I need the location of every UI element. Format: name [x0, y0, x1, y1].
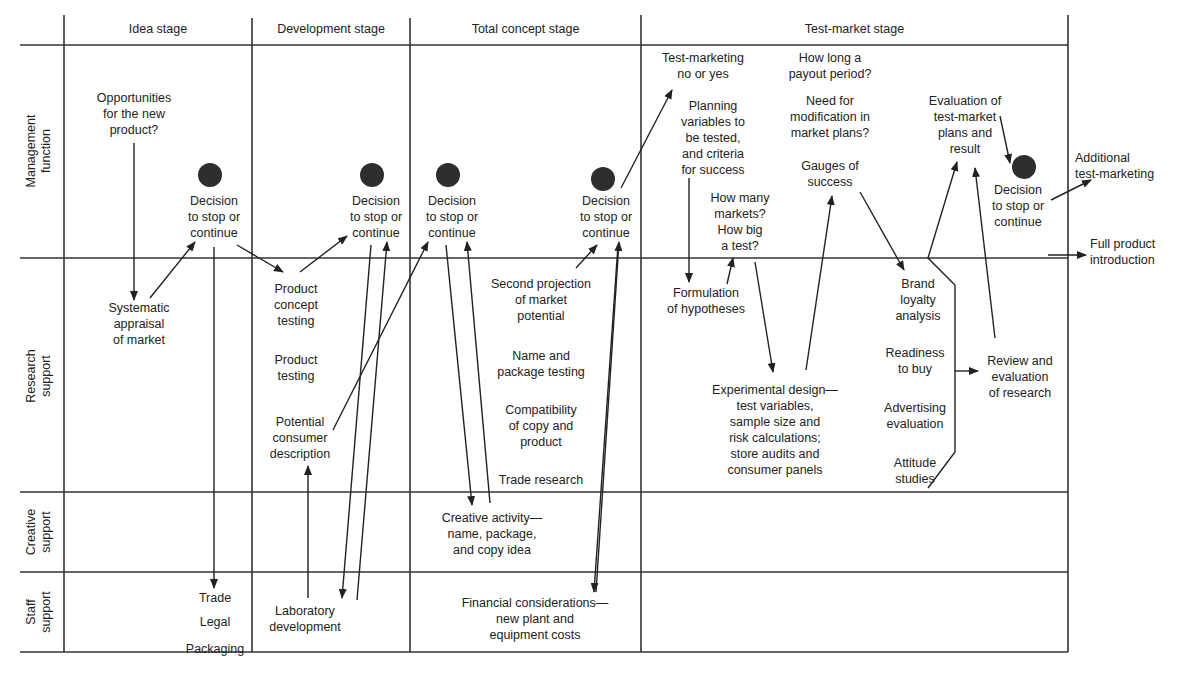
- second-projection-text: Second projection of market potential: [476, 276, 606, 324]
- creative-activity-text: Creative activity— name, package, and co…: [422, 510, 562, 558]
- attitude-text: Attitude studies: [872, 455, 958, 487]
- decision-development: Decision to stop or continue: [336, 193, 416, 241]
- decision-dot-icon: [1012, 155, 1036, 179]
- payout-text: How long a payout period?: [775, 50, 885, 82]
- decision-dot-icon: [198, 163, 222, 187]
- hypotheses-text: Formulation of hypotheses: [656, 285, 756, 317]
- column-header-idea: Idea stage: [64, 22, 252, 36]
- readiness-text: Readiness to buy: [872, 345, 958, 377]
- brand-loyalty-text: Brand loyalty analysis: [878, 276, 958, 324]
- decision-test-market-final: Decision to stop or continue: [978, 182, 1058, 230]
- consumer-description-text: Potential consumer description: [258, 414, 342, 462]
- row-label-staff: Staff support: [24, 567, 56, 657]
- laboratory-text: Laboratory development: [260, 603, 350, 635]
- row-label-management: Management function: [24, 96, 56, 206]
- row-label-creative: Creative support: [24, 487, 56, 577]
- appraisal-text: Systematic appraisal of market: [84, 300, 194, 348]
- financial-text: Financial considerations— new plant and …: [450, 595, 620, 643]
- staff-trade: Trade: [180, 590, 250, 606]
- experimental-design-text: Experimental design— test variables, sam…: [700, 382, 850, 478]
- row-label-research: Research support: [24, 326, 56, 426]
- staff-legal: Legal: [180, 614, 250, 630]
- test-marketing-text: Test-marketing no or yes: [648, 50, 758, 82]
- decision-dot-icon: [591, 167, 615, 191]
- column-header-total-concept: Total concept stage: [410, 22, 641, 36]
- decision-test-market-entry: Decision to stop or continue: [566, 193, 646, 241]
- name-package-text: Name and package testing: [476, 348, 606, 380]
- product-testing-text: Product testing: [260, 352, 332, 384]
- planning-text: Planning variables to be tested, and cri…: [668, 98, 758, 178]
- review-text: Review and evaluation of research: [975, 353, 1065, 401]
- staff-packaging: Packaging: [176, 641, 254, 657]
- decision-dot-icon: [436, 163, 460, 187]
- decision-idea: Decision to stop or continue: [174, 193, 254, 241]
- full-product-introduction-text: Full product introduction: [1090, 236, 1180, 268]
- column-header-development: Development stage: [252, 22, 410, 36]
- decision-dot-icon: [360, 163, 384, 187]
- gauges-text: Gauges of success: [790, 158, 870, 190]
- opportunities-text: Opportunities for the new product?: [84, 90, 184, 138]
- column-header-test-market: Test-market stage: [641, 22, 1068, 36]
- additional-test-marketing-text: Additional test-marketing: [1075, 150, 1180, 182]
- compatibility-text: Compatibility of copy and product: [476, 402, 606, 450]
- trade-research-text: Trade research: [476, 472, 606, 488]
- advertising-text: Advertising evaluation: [872, 400, 958, 432]
- how-many-markets-text: How many markets? How big a test?: [700, 190, 780, 254]
- evaluation-text: Evaluation of test-market plans and resu…: [915, 93, 1015, 157]
- decision-total-concept: Decision to stop or continue: [412, 193, 492, 241]
- concept-testing-text: Product concept testing: [260, 281, 332, 329]
- modification-text: Need for modification in market plans?: [775, 93, 885, 141]
- product-development-flow-diagram: Idea stage Development stage Total conce…: [0, 0, 1180, 688]
